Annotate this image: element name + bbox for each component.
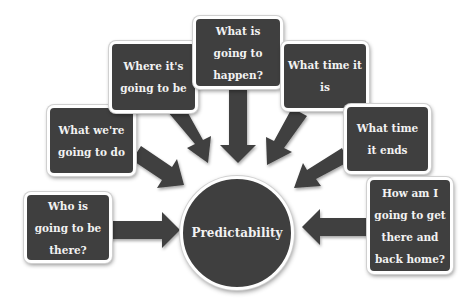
- node-what-we-do-label: What we're going to do: [54, 119, 129, 163]
- arrow-what-do: [132, 146, 184, 188]
- arrow-ends: [294, 148, 348, 188]
- center-node-label: Predictability: [191, 226, 282, 240]
- node-what-we-do: What we're going to do: [47, 105, 136, 176]
- node-where-label: Where it's going to be: [116, 55, 191, 99]
- node-where: Where it's going to be: [109, 41, 198, 113]
- node-travel-label: How am I going to get there and back hom…: [374, 182, 446, 270]
- arrow-time: [266, 108, 307, 165]
- center-node: Predictability: [180, 176, 294, 290]
- arrow-happen: [220, 88, 256, 163]
- node-what-time-label: What time it is: [288, 54, 362, 98]
- arrow-travel: [302, 209, 368, 245]
- node-who-label: Who is going to be there?: [31, 195, 105, 261]
- node-what-happen: What is going to happen?: [193, 16, 283, 89]
- node-time-ends: What time it ends: [344, 104, 431, 174]
- node-travel: How am I going to get there and back hom…: [367, 177, 453, 274]
- node-time-ends-label: What time it ends: [351, 117, 424, 161]
- node-what-time: What time it is: [281, 41, 369, 111]
- node-what-happen-label: What is going to happen?: [200, 20, 276, 86]
- node-who: Who is going to be there?: [24, 192, 112, 263]
- arrow-who: [110, 212, 180, 248]
